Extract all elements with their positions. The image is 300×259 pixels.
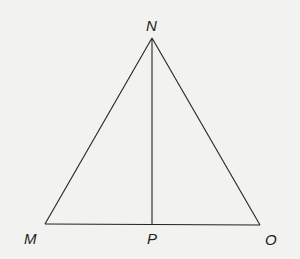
diagram-canvas: N M P O: [0, 0, 300, 259]
vertex-label-o: O: [265, 232, 277, 247]
point-label-p: P: [147, 231, 157, 246]
segment-mo: [45, 224, 260, 225]
vertex-label-n: N: [146, 18, 157, 33]
triangle-figure: [0, 0, 300, 259]
vertex-label-m: M: [24, 231, 37, 246]
segment-no: [152, 38, 260, 225]
segment-nm: [45, 38, 152, 224]
